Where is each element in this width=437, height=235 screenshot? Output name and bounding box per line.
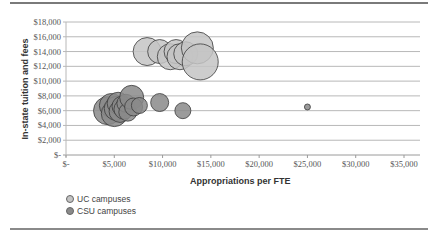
csu-swatch-icon <box>66 207 74 215</box>
y-axis-title: In-state tuition and fees <box>20 14 30 164</box>
bottom-rule <box>10 228 428 230</box>
bubble <box>182 44 218 80</box>
svg-text:$4,000: $4,000 <box>38 120 61 130</box>
bubble <box>131 97 147 113</box>
bubble <box>175 103 191 119</box>
x-axis-tick-labels: $-$5,000$10,000$15,000$20,000$25,000$30,… <box>62 159 417 169</box>
gridlines <box>63 22 420 158</box>
y-axis-tick-labels: $-$2,000$4,000$6,000$8,000$10,000$12,000… <box>33 17 61 160</box>
svg-text:$5,000: $5,000 <box>103 159 126 169</box>
legend-item-uc: UC campuses <box>66 193 136 205</box>
legend: UC campuses CSU campuses <box>66 193 136 217</box>
svg-text:$8,000: $8,000 <box>38 91 61 101</box>
svg-text:$12,000: $12,000 <box>33 61 61 71</box>
bubbles <box>94 32 311 127</box>
svg-text:$14,000: $14,000 <box>33 47 61 57</box>
x-axis-title: Appropriations per FTE <box>190 176 291 186</box>
svg-text:$20,000: $20,000 <box>245 159 273 169</box>
svg-text:$15,000: $15,000 <box>197 159 225 169</box>
svg-text:$16,000: $16,000 <box>33 32 61 42</box>
svg-text:$-: $- <box>54 150 61 160</box>
svg-text:$6,000: $6,000 <box>38 106 61 116</box>
legend-item-csu: CSU campuses <box>66 205 136 217</box>
svg-text:$10,000: $10,000 <box>33 76 61 86</box>
svg-text:$10,000: $10,000 <box>149 159 177 169</box>
svg-text:$-: $- <box>62 159 69 169</box>
svg-text:$30,000: $30,000 <box>342 159 370 169</box>
bubble <box>304 104 310 110</box>
svg-text:$2,000: $2,000 <box>38 135 61 145</box>
svg-text:$25,000: $25,000 <box>294 159 322 169</box>
svg-text:$18,000: $18,000 <box>33 17 61 27</box>
legend-label-uc: UC campuses <box>77 194 130 204</box>
legend-label-csu: CSU campuses <box>77 206 136 216</box>
bubble <box>151 94 169 112</box>
svg-text:$35,000: $35,000 <box>390 159 418 169</box>
uc-swatch-icon <box>66 195 74 203</box>
